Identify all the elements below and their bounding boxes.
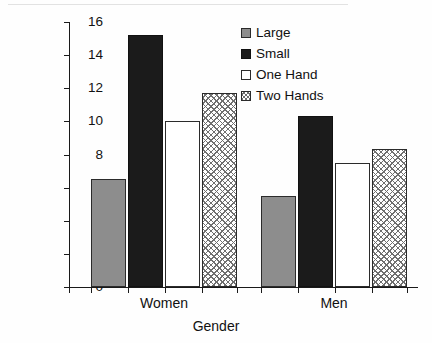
x-axis-tick bbox=[69, 288, 70, 293]
x-axis-group-label: Women bbox=[114, 295, 214, 311]
x-axis-tick bbox=[237, 288, 238, 293]
scan-artifact-line bbox=[8, 4, 348, 5]
legend-label: Large bbox=[256, 25, 291, 40]
bar bbox=[298, 116, 333, 287]
x-axis-tick bbox=[202, 288, 203, 293]
y-axis-tick-label: 14 bbox=[88, 48, 103, 62]
legend-item: Small bbox=[241, 43, 381, 64]
chart-legend: LargeSmallOne HandTwo Hands bbox=[241, 22, 381, 106]
x-axis-tick bbox=[128, 288, 129, 293]
y-axis-tick-label: 12 bbox=[88, 81, 103, 95]
legend-swatch bbox=[241, 28, 251, 38]
x-axis-tick bbox=[261, 288, 262, 293]
bar bbox=[165, 121, 200, 287]
x-axis-tick bbox=[165, 288, 166, 293]
legend-swatch bbox=[241, 49, 251, 59]
x-axis-tick bbox=[372, 288, 373, 293]
bar bbox=[128, 35, 163, 287]
legend-item: Two Hands bbox=[241, 85, 381, 106]
x-axis-tick bbox=[298, 288, 299, 293]
x-axis-line bbox=[69, 287, 418, 288]
x-axis-title: Gender bbox=[0, 318, 432, 334]
legend-label: Two Hands bbox=[256, 88, 324, 103]
y-axis-tick-label: 8 bbox=[95, 148, 103, 162]
legend-item: One Hand bbox=[241, 64, 381, 85]
bar bbox=[91, 179, 126, 287]
x-axis-group-label: Men bbox=[284, 295, 384, 311]
bar bbox=[202, 93, 237, 287]
x-axis-tick bbox=[407, 288, 408, 293]
x-axis-tick bbox=[91, 288, 92, 293]
x-axis-tick bbox=[335, 288, 336, 293]
legend-label: Small bbox=[256, 46, 290, 61]
legend-label: One Hand bbox=[256, 67, 318, 82]
legend-swatch bbox=[241, 70, 251, 80]
bar bbox=[335, 163, 370, 287]
bar bbox=[261, 196, 296, 287]
bar-chart-figure: 0246810121416 Mean Number of Gestures Ge… bbox=[0, 0, 432, 343]
y-axis-tick-label: 16 bbox=[88, 15, 103, 29]
y-axis-tick-label: 10 bbox=[88, 114, 103, 128]
legend-item: Large bbox=[241, 22, 381, 43]
legend-swatch bbox=[241, 91, 251, 101]
bar bbox=[372, 149, 407, 287]
